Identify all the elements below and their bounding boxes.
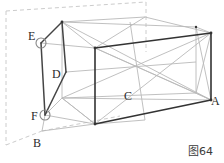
corner-dot-front-bottom-left [94, 123, 97, 126]
vertex-label-f: F [31, 110, 38, 122]
faint-e-horizontal [41, 43, 95, 48]
dashed-edge-top [6, 2, 146, 11]
figure-container: E D F B C A 图64 [0, 0, 224, 163]
dashed-construction-plane [6, 2, 146, 145]
faint-mid-horizontal [62, 98, 211, 100]
faint-b-to-frontbottom [42, 124, 95, 131]
vertex-label-c: C [124, 90, 132, 102]
edge-bottom-front [95, 100, 211, 124]
faint-f-horizontal [45, 115, 95, 124]
corner-dot-back-top-left [61, 21, 64, 24]
faint-construction-lines [41, 17, 211, 131]
faint-diagonal-long-6 [130, 22, 145, 120]
faint-d-horizontal [66, 62, 196, 72]
vertex-label-b: B [33, 137, 41, 149]
corner-dot-back-top-right [195, 26, 197, 28]
faint-diagonal-long-5 [95, 48, 196, 93]
edge-d-vertical [62, 22, 66, 72]
figure-caption: 图64 [188, 142, 213, 158]
faint-upper-recede-3 [95, 17, 145, 48]
vertex-label-d: D [52, 68, 61, 80]
faint-lower-2 [62, 98, 95, 124]
faint-f-to-backbottom [45, 98, 62, 115]
corner-dot-front-top-right [210, 32, 213, 35]
faint-top-left-connector [62, 22, 95, 48]
faint-upper-recede-1 [62, 17, 145, 22]
vertex-label-a: A [211, 95, 220, 107]
vertex-label-e: E [28, 30, 35, 42]
faint-diagonal-right-2 [196, 33, 211, 93]
edge-e-to-f [41, 43, 45, 115]
faint-diagonal-long-2 [95, 33, 211, 124]
dashed-edge-bottom-recede [42, 116, 120, 131]
faint-upper-recede-2 [145, 17, 211, 33]
faint-b-to-f [42, 115, 45, 131]
corner-dot-front-top-left [94, 47, 97, 50]
